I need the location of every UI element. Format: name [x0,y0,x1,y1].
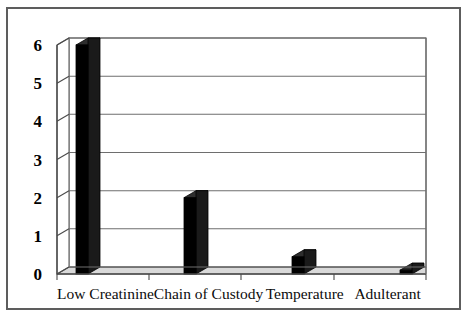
x-label-chain-of-custody: Chain of Custody [154,281,263,307]
y-axis-tick-labels: 6 5 4 3 2 1 0 [14,9,42,312]
x-axis-category-labels: Low Creatinine Chain of Custody Temperat… [57,281,429,307]
x-axis-ticks [57,274,426,280]
y-tick-1: 1 [20,227,42,244]
x-label-low-creatinine: Low Creatinine [57,281,154,307]
figure-border: 6 5 4 3 2 1 0 Low Creatinine Chain of Cu… [6,7,461,310]
bar-chart-plot [8,9,463,312]
y-tick-5: 5 [20,75,42,92]
y-tick-6: 6 [20,37,42,54]
y-tick-4: 4 [20,113,42,130]
bar-chain-of-custody [184,191,208,274]
bar-low-creatinine [76,38,100,274]
y-tick-3: 3 [20,151,42,168]
y-tick-2: 2 [20,189,42,206]
x-label-temperature: Temperature [263,281,346,307]
plot-floor [57,267,426,274]
y-tick-0: 0 [20,266,42,283]
x-label-adulterant: Adulterant [346,281,429,307]
